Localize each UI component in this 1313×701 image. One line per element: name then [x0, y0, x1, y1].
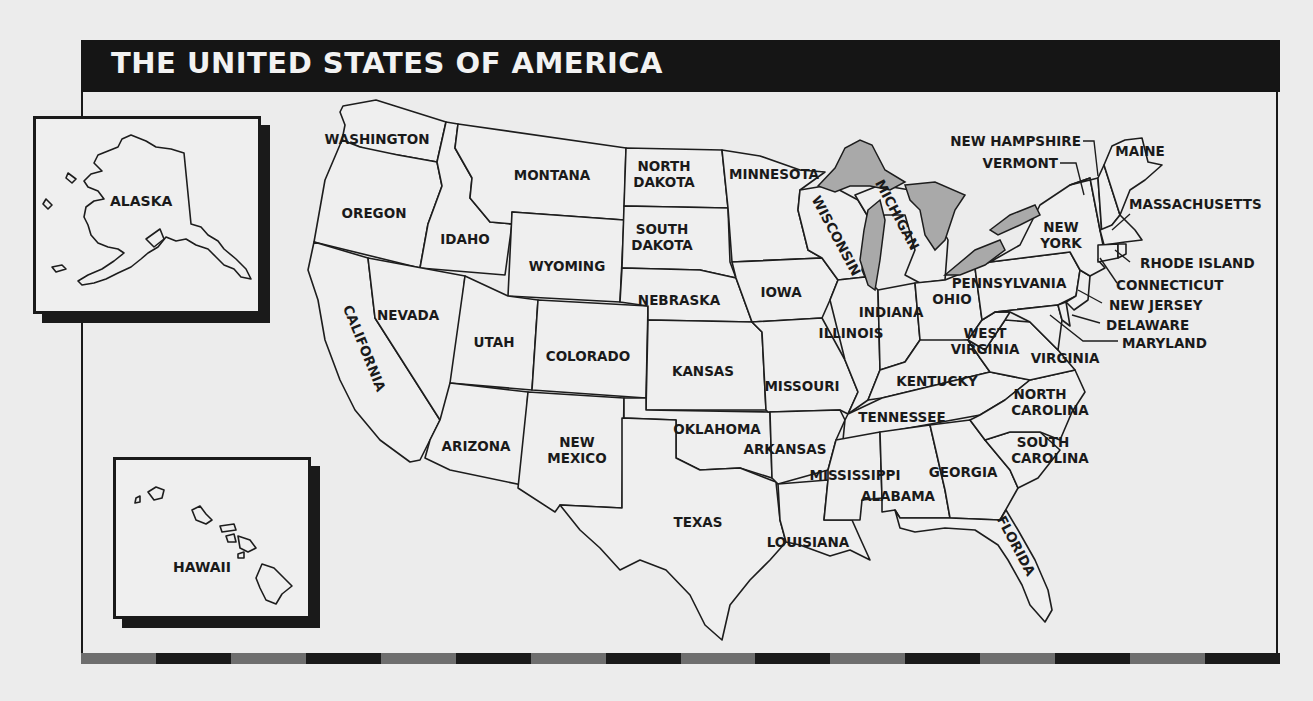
label-south-dakota-line1: SOUTH [636, 221, 689, 237]
label-south-carolina-line1: SOUTH [1017, 434, 1070, 450]
label-oklahoma: OKLAHOMA [673, 421, 761, 437]
label-maine: MAINE [1115, 143, 1164, 159]
label-west-virginia-line2: VIRGINIA [951, 341, 1020, 357]
label-illinois: ILLINOIS [819, 325, 884, 341]
label-new-mexico-line1: NEW [559, 434, 595, 450]
label-vermont: VERMONT [983, 155, 1059, 171]
label-minnesota: MINNESOTA [729, 166, 820, 182]
contiguous-us-map: WASHINGTON OREGON IDAHO MONTANA WYOMING … [0, 0, 1313, 701]
label-north-dakota-line2: DAKOTA [633, 174, 695, 190]
label-idaho: IDAHO [440, 231, 489, 247]
label-louisiana: LOUISIANA [767, 534, 850, 550]
label-montana: MONTANA [514, 167, 591, 183]
state-wyoming [508, 212, 624, 302]
label-maryland: MARYLAND [1122, 335, 1207, 351]
label-kansas: KANSAS [672, 363, 734, 379]
label-south-dakota-line2: DAKOTA [631, 237, 693, 253]
label-new-jersey: NEW JERSEY [1109, 297, 1203, 313]
label-iowa: IOWA [760, 284, 802, 300]
lake-superior [818, 140, 905, 192]
label-arizona: ARIZONA [442, 438, 511, 454]
label-massachusetts: MASSACHUSETTS [1129, 196, 1262, 212]
label-new-mexico-line2: MEXICO [547, 450, 606, 466]
label-kentucky: KENTUCKY [896, 373, 978, 389]
label-nebraska: NEBRASKA [638, 292, 721, 308]
label-nevada: NEVADA [377, 307, 440, 323]
label-connecticut: CONNECTICUT [1116, 277, 1224, 293]
label-tennessee: TENNESSEE [858, 409, 946, 425]
label-rhode-island: RHODE ISLAND [1140, 255, 1255, 271]
label-texas: TEXAS [673, 514, 722, 530]
label-virginia: VIRGINIA [1031, 350, 1100, 366]
label-arkansas: ARKANSAS [744, 441, 827, 457]
label-washington: WASHINGTON [325, 131, 430, 147]
label-utah: UTAH [474, 334, 515, 350]
label-colorado: COLORADO [546, 348, 631, 364]
label-ohio: OHIO [932, 291, 971, 307]
label-north-dakota-line1: NORTH [637, 158, 690, 174]
label-missouri: MISSOURI [764, 378, 839, 394]
label-west-virginia-line1: WEST [963, 325, 1007, 341]
label-delaware: DELAWARE [1106, 317, 1189, 333]
label-mississippi: MISSISSIPPI [810, 467, 901, 483]
label-north-carolina-line2: CAROLINA [1011, 402, 1089, 418]
label-pennsylvania: PENNSYLVANIA [952, 275, 1067, 291]
label-new-york-line2: YORK [1039, 235, 1082, 251]
label-indiana: INDIANA [859, 304, 924, 320]
label-south-carolina-line2: CAROLINA [1011, 450, 1089, 466]
label-oregon: OREGON [342, 205, 407, 221]
label-alabama: ALABAMA [861, 488, 936, 504]
label-north-carolina-line1: NORTH [1013, 386, 1066, 402]
label-georgia: GEORGIA [929, 464, 998, 480]
label-new-york-line1: NEW [1043, 219, 1079, 235]
label-wyoming: WYOMING [529, 258, 606, 274]
label-new-hampshire: NEW HAMPSHIRE [950, 133, 1081, 149]
